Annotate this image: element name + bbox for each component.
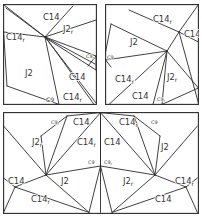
region-label: J2 bbox=[160, 142, 169, 152]
panel-top-left: C14C14rJ2rJ2C9rC14C14rC9 bbox=[3, 4, 97, 105]
region-label: J2 bbox=[60, 176, 69, 186]
panel-top-right: C14rC14J2C9C14rJ2rC14C9r bbox=[105, 4, 199, 105]
region-label: C14 bbox=[73, 117, 90, 127]
region-label: J2 bbox=[24, 68, 33, 78]
region-label: C9 bbox=[151, 119, 158, 125]
region-label: C14 bbox=[155, 194, 172, 204]
region-label: C9 bbox=[107, 54, 114, 60]
region-label: C14 bbox=[184, 29, 199, 39]
region-label: C14 bbox=[8, 176, 25, 186]
panel-border bbox=[106, 5, 199, 105]
region-label: C14 bbox=[132, 91, 149, 101]
dissection-figure: C14C14rJ2rJ2C9rC14C14rC9 C14rC14J2C9C14r… bbox=[0, 0, 202, 218]
panel-bottom: C9rC14C14rC9J2rC14rC14J2C9C9rC14J2J2rC14… bbox=[3, 112, 199, 214]
region-label: C9 bbox=[46, 96, 54, 103]
region-label: C14 bbox=[43, 12, 60, 22]
region-label: C14 bbox=[69, 72, 86, 82]
region-label: C9 bbox=[88, 159, 95, 165]
region-label: J2 bbox=[129, 37, 138, 47]
region-label: C14 bbox=[104, 137, 121, 147]
